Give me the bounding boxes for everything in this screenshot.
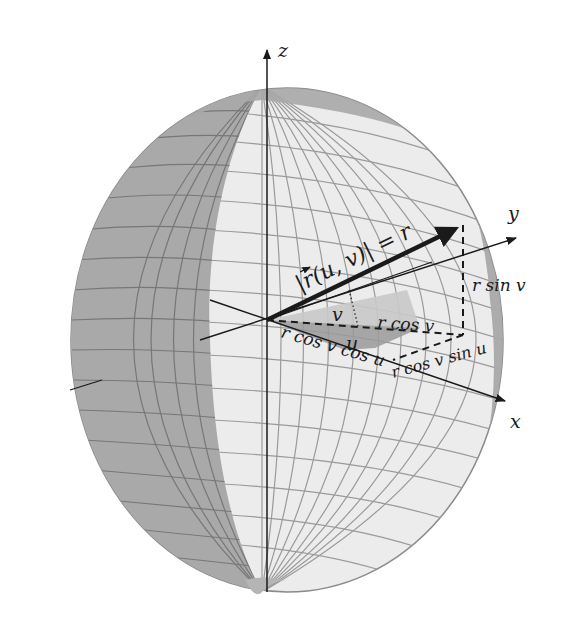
spherical-coordinates-diagram: z y x |r(u, v)| = r v u r cos v r sin v … — [0, 0, 561, 631]
y-axis-label: y — [507, 202, 519, 224]
r-cos-v-label: r cos v — [377, 312, 436, 336]
z-axis-label: z — [277, 39, 289, 61]
x-axis-label: x — [510, 410, 521, 432]
r-sin-v-label: r sin v — [472, 275, 526, 295]
angle-v-label: v — [332, 303, 343, 325]
